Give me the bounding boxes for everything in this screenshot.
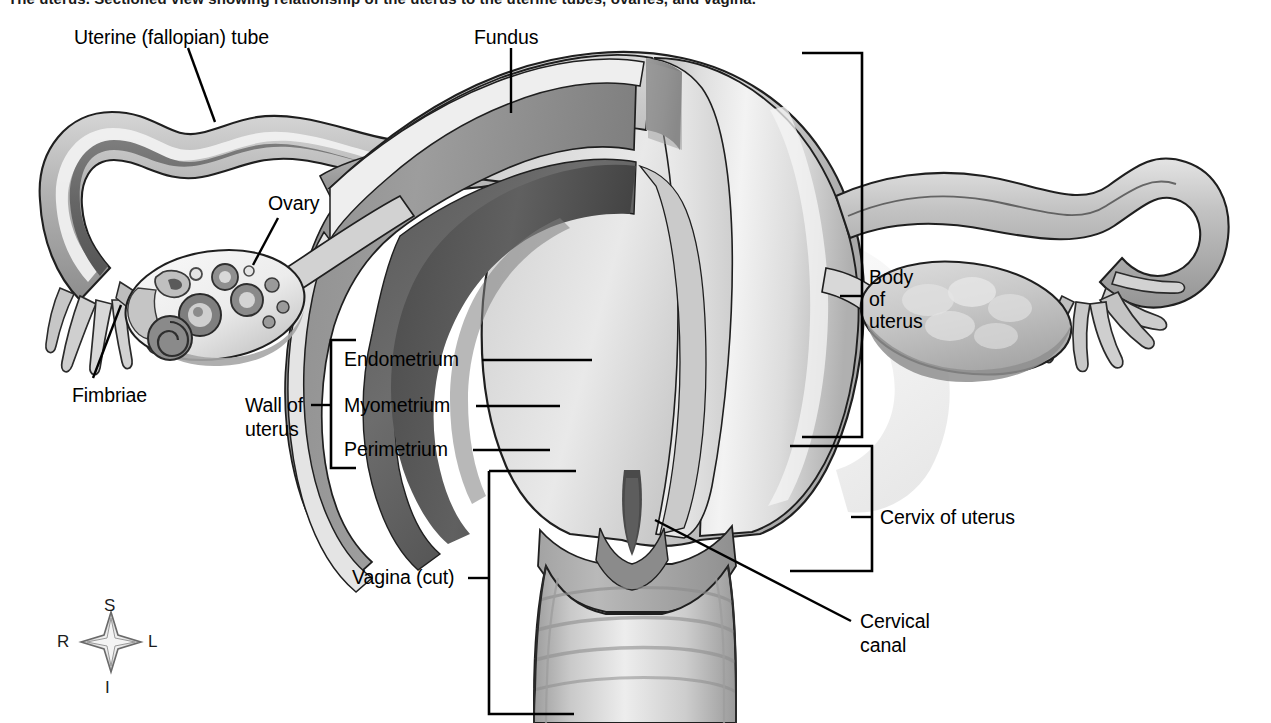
compass-label-inferior: I — [105, 678, 110, 698]
leader-uterine-tube — [188, 48, 215, 122]
label-cervix-of-uterus: Cervix of uterus — [880, 506, 1015, 529]
label-cervical-canal-line1: Cervical — [860, 610, 930, 633]
label-perimetrium: Perimetrium — [344, 438, 448, 461]
label-body-of-uterus-line2: of — [869, 288, 885, 311]
label-uterine-tube: Uterine (fallopian) tube — [74, 26, 269, 49]
label-vagina-cut: Vagina (cut) — [352, 566, 455, 589]
label-wall-of-uterus-line2: uterus — [245, 418, 299, 441]
label-cervical-canal-line2: canal — [860, 634, 906, 657]
uterus-body — [285, 52, 864, 592]
label-body-of-uterus-line3: uterus — [869, 310, 923, 333]
uterus-anatomy-illustration — [0, 0, 1271, 723]
figure-canvas: The uterus. Sectioned view showing relat… — [0, 0, 1271, 723]
compass-label-right: R — [57, 632, 69, 652]
label-wall-of-uterus-line1: Wall of — [245, 394, 303, 417]
label-endometrium: Endometrium — [344, 348, 459, 371]
label-fimbriae: Fimbriae — [72, 384, 147, 407]
label-ovary: Ovary — [268, 192, 320, 215]
label-body-of-uterus-line1: Body — [869, 266, 913, 289]
compass-label-superior: S — [104, 596, 115, 616]
label-myometrium: Myometrium — [344, 394, 450, 417]
compass-label-left: L — [148, 632, 157, 652]
orientation-compass — [81, 612, 141, 672]
label-fundus: Fundus — [474, 26, 538, 49]
